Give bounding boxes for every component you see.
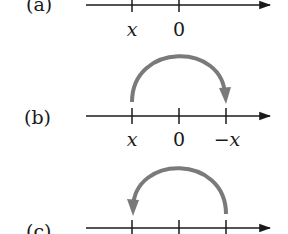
- panel-b-label: (b): [24, 106, 51, 128]
- arc-x-to-neg-x: [132, 56, 225, 102]
- tick-label-x-b: x: [127, 128, 138, 150]
- tick-label-x-a: x: [127, 18, 138, 40]
- arrowhead-c-icon: [127, 199, 139, 216]
- arc-neg-x-to-x: [133, 168, 226, 214]
- tick-label-neg-x-b: −x: [214, 128, 241, 150]
- panel-c: (c): [26, 168, 270, 234]
- number-line-diagram: (a) x 0 (b) x 0 −x (c): [0, 0, 288, 234]
- tick-label-0-a: 0: [173, 18, 185, 40]
- arrowhead-b-icon: [219, 87, 231, 104]
- panel-c-label: (c): [26, 220, 51, 234]
- panel-a-label: (a): [26, 0, 52, 15]
- panel-a: (a) x 0: [26, 0, 270, 40]
- panel-b: (b) x 0 −x: [24, 56, 270, 150]
- tick-label-0-b: 0: [173, 128, 185, 150]
